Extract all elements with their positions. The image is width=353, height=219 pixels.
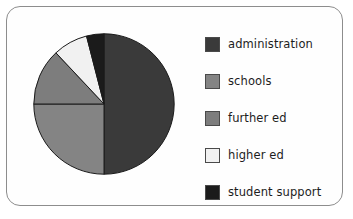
legend-swatch-further-ed bbox=[205, 111, 220, 126]
legend-swatch-student-support bbox=[205, 185, 220, 200]
legend-item-schools[interactable]: schools bbox=[205, 73, 345, 89]
pie-chart bbox=[33, 33, 175, 175]
legend-item-student-support[interactable]: student support bbox=[205, 184, 345, 200]
pie-slice-administration[interactable] bbox=[104, 34, 174, 174]
legend-item-higher-ed[interactable]: higher ed bbox=[205, 147, 345, 163]
legend-label-further-ed: further ed bbox=[228, 111, 287, 125]
pie-svg bbox=[33, 33, 175, 175]
pie-slices bbox=[34, 34, 174, 174]
legend-label-schools: schools bbox=[228, 74, 272, 88]
legend-label-student-support: student support bbox=[228, 185, 321, 199]
legend-label-administration: administration bbox=[228, 37, 313, 51]
chart-legend: administration schools further ed higher… bbox=[205, 36, 345, 200]
legend-item-further-ed[interactable]: further ed bbox=[205, 110, 345, 126]
pie-chart-figure: administration schools further ed higher… bbox=[0, 0, 353, 219]
legend-swatch-schools bbox=[205, 74, 220, 89]
legend-item-administration[interactable]: administration bbox=[205, 36, 345, 52]
legend-label-higher-ed: higher ed bbox=[228, 148, 284, 162]
legend-swatch-higher-ed bbox=[205, 148, 220, 163]
legend-swatch-administration bbox=[205, 37, 220, 52]
pie-slice-schools[interactable] bbox=[34, 104, 104, 174]
